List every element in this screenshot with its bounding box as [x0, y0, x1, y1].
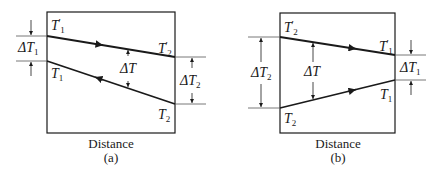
caption-b: (b) [278, 151, 398, 165]
cold-stream-line-b [280, 80, 395, 108]
label-bottom-left-b: T2 [284, 112, 296, 130]
label-top-right-a: T′2 [158, 38, 172, 60]
label-bottom-right-a: T2 [158, 108, 170, 126]
label-delta-mid-b: ΔT [304, 65, 320, 79]
label-delta-mid-a: ΔT [120, 62, 136, 76]
label-bottom-left-a: T1 [51, 67, 63, 85]
label-delta-right-b: ΔT1 [400, 61, 421, 79]
x-axis-label-b: Distance [278, 137, 398, 151]
label-delta-left-a: ΔT1 [18, 41, 39, 59]
cold-stream-line-a [47, 61, 175, 104]
x-axis-label-a: Distance [51, 137, 171, 151]
hot-stream-line-b [280, 37, 395, 55]
figure-a [16, 12, 206, 133]
plot-frame-a [47, 12, 175, 133]
label-top-right-b: T′1 [379, 36, 393, 58]
caption-a: (a) [51, 151, 171, 165]
label-top-left-b: T′2 [284, 17, 298, 39]
label-top-left-a: T′1 [51, 15, 65, 37]
label-delta-right-a: ΔT2 [180, 74, 201, 92]
hot-stream-line-a [47, 36, 175, 57]
label-bottom-right-b: T1 [380, 88, 392, 106]
label-delta-left-b: ΔT2 [251, 66, 272, 84]
flow-arrow-right-icon [348, 90, 356, 92]
